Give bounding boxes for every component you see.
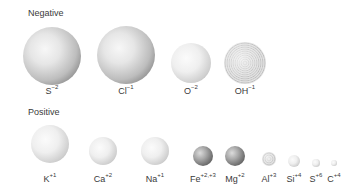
- ion-label-fe: Fe+2,+3: [190, 174, 216, 184]
- ion-label-s: S−2: [46, 86, 59, 96]
- ion-sphere-oh: [224, 42, 266, 84]
- ion-sphere-s: [23, 27, 81, 85]
- ion-label-ca: Ca+2: [94, 174, 112, 184]
- ion-label-si: Si+4: [287, 174, 302, 184]
- ion-label-oh: OH−1: [235, 86, 255, 96]
- ion-label-o: O−2: [184, 86, 198, 96]
- ion-sphere-na: [141, 137, 169, 165]
- ion-label-al: Al+3: [262, 174, 277, 184]
- ion-sphere-ca: [89, 137, 117, 165]
- negative-group-title: Negative: [28, 8, 64, 18]
- ion-sphere-s: [312, 159, 320, 167]
- positive-group-title: Positive: [28, 107, 60, 117]
- ion-sphere-c: [331, 160, 337, 166]
- ion-label-s: S+6: [310, 174, 323, 184]
- ion-sphere-cl: [97, 26, 155, 84]
- ion-sphere-fe: [193, 146, 213, 166]
- ion-sphere-mg: [225, 146, 245, 166]
- ion-sphere-o: [171, 43, 211, 83]
- ion-sphere-k: [31, 125, 69, 163]
- ion-sphere-si: [288, 155, 300, 167]
- ion-label-k: K+1: [44, 174, 57, 184]
- ion-label-na: Na+1: [146, 174, 164, 184]
- ion-sphere-al: [262, 152, 276, 166]
- ion-label-mg: Mg+2: [225, 174, 244, 184]
- ion-label-cl: Cl−1: [118, 86, 133, 96]
- ion-label-c: C+4: [327, 174, 340, 184]
